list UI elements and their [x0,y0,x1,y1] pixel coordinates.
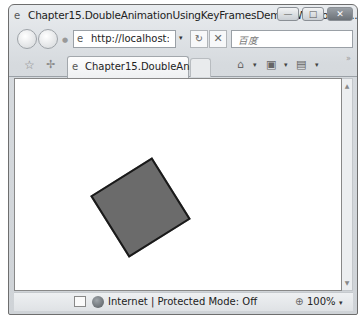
home-icon[interactable]: ⌂ [237,58,244,71]
status-bar: Internet | Protected Mode: Off ⊕ 100% ▾ [14,292,353,311]
maximize-button[interactable]: □ [302,7,324,21]
zoom-icon: ⊕ [295,296,303,307]
forward-button[interactable] [38,29,58,49]
search-input[interactable]: 百度 [238,33,258,47]
print-icon[interactable]: ▤ [296,58,306,71]
home-dropdown-icon[interactable]: ▾ [253,61,257,69]
title-bar[interactable]: e Chapter15.DoubleAnimationUsingKeyFrame… [9,5,357,27]
close-icon: ✕ [328,8,352,20]
security-zone-text[interactable]: Internet | Protected Mode: Off [108,296,257,307]
ie-tab-icon: e [72,61,78,72]
minimize-icon: — [278,8,298,20]
zoom-dropdown-icon[interactable]: ▾ [339,299,343,307]
address-bar[interactable]: e http://localhost:538 [73,30,176,48]
scroll-down-icon[interactable]: ▼ [342,278,352,288]
minimize-button[interactable]: — [277,7,299,21]
page-content [14,78,342,291]
tab-active[interactable]: e Chapter15.DoubleAnim... [67,56,189,78]
ie-icon: e [14,10,25,21]
close-button[interactable]: ✕ [327,7,353,21]
feeds-icon[interactable]: ▣ [266,58,276,71]
recent-pages-dropdown-icon[interactable]: ● [62,36,68,44]
back-button[interactable] [17,29,37,49]
scroll-up-icon[interactable]: ▲ [342,81,352,91]
window-controls: — □ ✕ [277,7,353,21]
page-icon: e [77,33,83,44]
zoom-level[interactable]: 100% [307,296,336,307]
animated-rectangle [90,157,191,258]
new-tab-button[interactable] [190,58,211,77]
more-commands-icon[interactable]: » [346,54,351,63]
globe-icon [92,296,104,308]
address-dropdown-icon[interactable]: ▾ [179,34,183,42]
print-dropdown-icon[interactable]: ▾ [315,61,319,69]
maximize-icon: □ [303,8,323,20]
search-box[interactable]: 百度 [231,30,353,48]
browser-window: e Chapter15.DoubleAnimationUsingKeyFrame… [8,4,358,315]
stop-button[interactable]: ✕ [209,30,227,48]
popup-blocker-icon[interactable] [74,296,86,307]
add-favorites-icon[interactable]: ✢ [46,58,55,71]
refresh-button[interactable]: ↻ [190,30,208,48]
address-input[interactable]: http://localhost:538 [91,33,169,44]
vertical-scrollbar[interactable]: ▲ ▼ [342,78,353,291]
feeds-dropdown-icon[interactable]: ▾ [284,61,288,69]
favorites-star-icon[interactable]: ☆ [24,58,35,72]
tab-bar: ☆ ✢ e Chapter15.DoubleAnim... ⌂ ▾ ▣ ▾ ▤ … [9,51,357,77]
navigation-bar: ● e http://localhost:538 ▾ ↻ ✕ 百度 [9,27,357,51]
